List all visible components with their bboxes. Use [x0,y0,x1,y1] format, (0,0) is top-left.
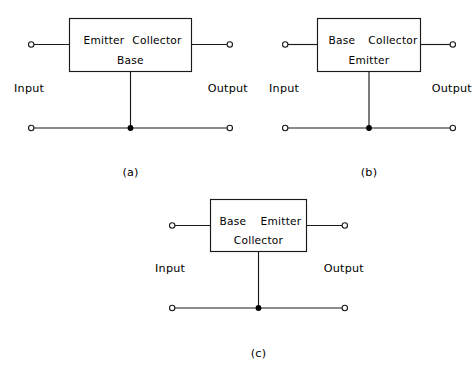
caption-b: (b) [361,166,377,179]
transistor-configurations-figure: Emitter Collector Base Input Output (a) [0,0,475,369]
input-terminal-a [29,42,34,47]
box-label-a-bottom-center: Base [117,54,144,66]
output-terminal-b [450,42,455,47]
figure-root: Emitter Collector Base Input Output (a) [0,0,475,369]
box-label-a-top-left: Emitter [84,34,125,46]
input-terminal-b [283,42,288,47]
junction-dot-c [256,305,262,311]
box-label-b-top-right: Collector [368,34,418,46]
box-label-b-bottom-center: Emitter [349,54,390,66]
output-label-c: Output [324,262,365,275]
junction-dot-b [366,125,372,131]
output-label-b: Output [432,82,473,95]
box-label-c-top-left: Base [220,215,247,227]
output-return-terminal-c [342,305,347,310]
input-return-terminal-b [283,125,288,130]
output-return-terminal-b [450,125,455,130]
box-label-a-top-right: Collector [132,34,182,46]
diagram-b: Base Collector Emitter Input Output (b) [269,19,472,180]
caption-c: (c) [251,347,266,360]
input-label-a: Input [14,82,45,95]
box-label-b-top-left: Base [329,34,356,46]
box-label-c-bottom-center: Collector [234,234,284,246]
output-label-a: Output [208,82,249,95]
output-terminal-a [227,42,232,47]
input-return-terminal-c [170,305,175,310]
output-return-terminal-a [227,125,232,130]
input-return-terminal-a [29,125,34,130]
input-label-c: Input [155,262,186,275]
input-label-b: Input [269,82,300,95]
diagram-a: Emitter Collector Base Input Output (a) [14,19,248,180]
box-label-c-top-right: Emitter [261,215,302,227]
junction-dot-a [128,125,134,131]
input-terminal-c [170,223,175,228]
caption-a: (a) [122,166,138,179]
output-terminal-c [342,223,347,228]
diagram-c: Base Emitter Collector Input Output (c) [155,200,364,361]
